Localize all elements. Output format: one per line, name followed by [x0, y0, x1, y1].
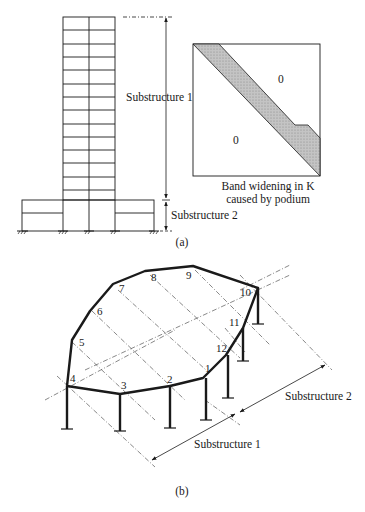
node-label-11: 11: [229, 316, 240, 328]
node-label-2: 2: [167, 373, 173, 385]
matrix-zero-upper: 0: [278, 73, 284, 85]
matrix-caption-line1: Band widening in K: [222, 180, 316, 193]
node-label-9: 9: [186, 269, 192, 281]
stiffness-matrix: 0 0: [193, 44, 320, 176]
node-label-6: 6: [97, 305, 103, 317]
label-substructure-2-a: Substructure 2: [171, 209, 238, 221]
node-labels: 1 2 3 4 5 6 7 8 9 10 11 12: [70, 269, 252, 391]
node-label-7: 7: [119, 282, 125, 294]
node-label-3: 3: [121, 379, 127, 391]
node-label-12: 12: [216, 342, 227, 354]
label-substructure-1-a: Substructure 1: [126, 91, 193, 103]
frame-outline: [67, 266, 258, 394]
caption-a: (a): [176, 236, 189, 249]
figure-b: 1 2 3 4 5 6 7 8 9 10 11 12 Substructure …: [45, 265, 352, 498]
dimension-substructure-1-a: [123, 17, 172, 231]
frame-columns: [67, 288, 258, 431]
matrix-zero-lower: 0: [233, 134, 239, 146]
node-label-10: 10: [240, 286, 252, 298]
node-label-4: 4: [70, 372, 76, 384]
figure-canvas: Substructure 1 Substructure 2 0 0 Band w…: [0, 0, 365, 512]
figure-a: Substructure 1 Substructure 2 0 0 Band w…: [17, 17, 320, 249]
caption-b: (b): [175, 485, 189, 498]
node-label-5: 5: [79, 336, 85, 348]
grid-lines: [45, 265, 332, 467]
matrix-caption-line2: caused by podium: [226, 193, 310, 206]
label-substructure-1-b: Substructure 1: [194, 438, 261, 450]
podium-frame: [22, 200, 154, 231]
tower-frame: [63, 17, 115, 231]
node-label-1: 1: [205, 362, 211, 374]
node-label-8: 8: [151, 271, 157, 283]
label-substructure-2-b: Substructure 2: [285, 390, 352, 402]
